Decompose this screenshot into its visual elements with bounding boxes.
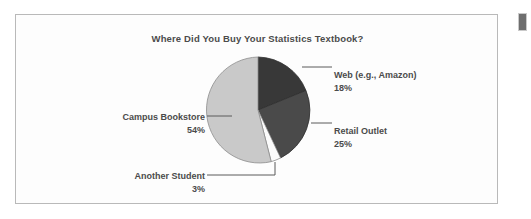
pie-label-retail-outlet-value: 25% [334,138,387,151]
figure-frame: Where Did You Buy Your Statistics Textbo… [15,14,498,204]
leader-line-another-student [207,162,275,175]
pie-chart-plot-area: Web (e.g., Amazon) 18% Retail Outlet 25%… [16,15,499,205]
pie-label-another-student-value: 3% [71,183,205,196]
pie-label-another-student-text: Another Student [71,170,205,183]
pie-label-campus-bookstore-text: Campus Bookstore [71,111,205,124]
page-margin-mark [518,13,527,31]
pie-label-another-student: Another Student 3% [71,170,205,195]
pie-label-retail-outlet-text: Retail Outlet [334,125,387,138]
pie-label-campus-bookstore: Campus Bookstore 54% [71,111,205,136]
pie-label-web-text: Web (e.g., Amazon) [334,69,417,82]
pie-label-web-value: 18% [334,82,417,95]
pie-label-retail-outlet: Retail Outlet 25% [334,125,387,150]
pie-label-web: Web (e.g., Amazon) 18% [334,69,417,94]
pie-label-campus-bookstore-value: 54% [71,124,205,137]
